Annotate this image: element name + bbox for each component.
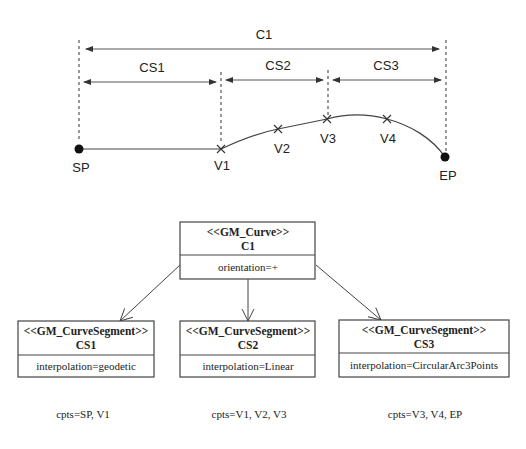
end-point-marker [441, 153, 450, 162]
class-name: CS1 [76, 339, 97, 351]
sp-label: SP [72, 160, 89, 175]
class-name: CS2 [238, 339, 259, 351]
gm-curve-class-box: <<GM_Curve>> C1 orientation=+ [180, 222, 315, 279]
v3-label: V3 [320, 131, 336, 146]
geometry-diagram: C1 CS1 CS2 CS3 SP V1 V2 V3 V4 EP [72, 27, 456, 183]
v4-label: V4 [380, 131, 396, 146]
cs2-control-points: cpts=V1, V2, V3 [212, 408, 287, 420]
curve-segment-diagram: C1 CS1 CS2 CS3 SP V1 V2 V3 V4 EP [0, 0, 526, 449]
association-c1-cs3 [316, 265, 381, 320]
vertex-markers [217, 115, 391, 153]
class-stereotype: <<GM_CurveSegment>> [362, 324, 487, 337]
class-stereotype: <<GM_Curve>> [207, 226, 289, 238]
v4-cross-icon [383, 115, 391, 123]
start-point-marker [75, 145, 84, 154]
association-c1-cs1 [120, 265, 180, 321]
cs2-dimension-label: CS2 [265, 58, 290, 73]
cs3-dimension-label: CS3 [373, 58, 398, 73]
v1-label: V1 [214, 158, 230, 173]
cs1-class-box: <<GM_CurveSegment>> CS1 interpolation=ge… [18, 321, 154, 377]
cs1-control-points: cpts=SP, V1 [56, 408, 110, 420]
uml-diagram: <<GM_Curve>> C1 orientation=+ <<GM_Curve… [18, 222, 509, 420]
class-stereotype: <<GM_CurveSegment>> [186, 325, 311, 338]
cs2-class-box: <<GM_CurveSegment>> CS2 interpolation=Li… [180, 321, 315, 377]
class-attribute: orientation=+ [218, 261, 278, 273]
class-attribute: interpolation=CircularArc3Points [350, 359, 498, 371]
cs1-dimension-label: CS1 [139, 60, 164, 75]
class-name: C1 [241, 240, 255, 252]
c1-dimension-label: C1 [256, 27, 273, 42]
class-attribute: interpolation=geodetic [36, 360, 136, 372]
cs3-class-box: <<GM_CurveSegment>> CS3 interpolation=Ci… [339, 320, 509, 377]
ep-label: EP [439, 168, 456, 183]
class-stereotype: <<GM_CurveSegment>> [24, 325, 149, 338]
v2-label: V2 [274, 141, 290, 156]
cs3-control-points: cpts=V3, V4, EP [388, 408, 462, 420]
class-attribute: interpolation=Linear [202, 360, 293, 372]
class-name: CS3 [414, 338, 435, 350]
